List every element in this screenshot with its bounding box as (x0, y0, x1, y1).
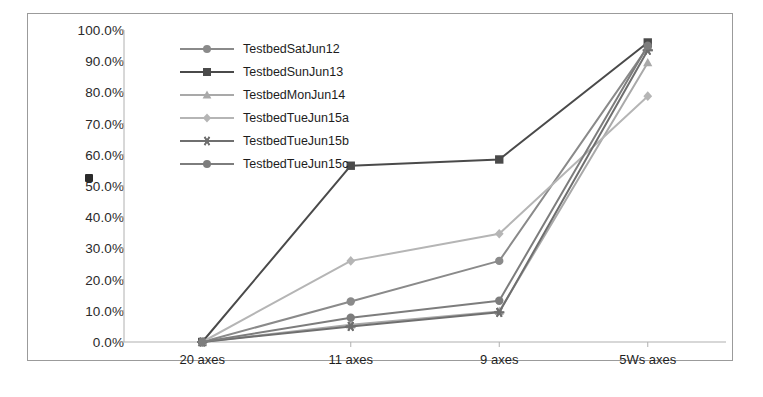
legend-label: TestbedSunJun13 (243, 65, 343, 79)
x-tick-label: 9 axes (480, 352, 518, 367)
legend-label: TestbedTueJun15a (243, 111, 349, 125)
legend-item[interactable]: TestbedSatJun12 (178, 38, 349, 59)
series-marker-circle (203, 45, 211, 53)
legend-label: TestbedSatJun12 (243, 42, 340, 56)
series-marker-circle (203, 160, 211, 168)
legend-marker-key (178, 157, 236, 171)
legend-label: TestbedTueJun15c (243, 157, 348, 171)
x-tick-label: 11 axes (328, 352, 373, 367)
series-marker-square (203, 68, 211, 76)
legend-marker-key (178, 65, 236, 79)
legend-label: TestbedTueJun15b (243, 134, 349, 148)
series-marker-asterisk (202, 136, 212, 144)
legend-item[interactable]: TestbedTueJun15a (178, 107, 349, 128)
legend-marker-key (178, 42, 236, 56)
x-tick-label: 20 axes (179, 352, 225, 367)
stray-marker-artifact (85, 174, 93, 182)
series-marker-diamond (203, 113, 211, 122)
legend-marker-key (178, 111, 236, 125)
legend-item[interactable]: TestbedSunJun13 (178, 61, 349, 82)
legend-marker-key (178, 134, 236, 148)
legend-marker-key (178, 88, 236, 102)
legend-label: TestbedMonJun14 (243, 88, 345, 102)
x-tick-label: 5Ws axes (619, 352, 676, 367)
legend-item[interactable]: TestbedMonJun14 (178, 84, 349, 105)
legend-item[interactable]: TestbedTueJun15b (178, 130, 349, 151)
chart-frame: 0.0%10.0%20.0%30.0%40.0%50.0%60.0%70.0%8… (27, 13, 733, 361)
chart-legend: TestbedSatJun12TestbedSunJun13TestbedMon… (178, 38, 349, 174)
plot-area: 0.0%10.0%20.0%30.0%40.0%50.0%60.0%70.0%8… (28, 14, 734, 362)
legend-item[interactable]: TestbedTueJun15c (178, 153, 349, 174)
